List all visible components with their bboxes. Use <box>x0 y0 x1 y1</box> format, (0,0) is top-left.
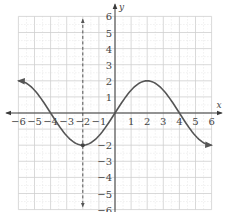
y-tick-label: 6 <box>106 11 112 22</box>
y-tick-label: 5 <box>106 28 112 39</box>
y-axis-label: y <box>118 2 125 12</box>
y-tick-label: −2 <box>97 140 112 151</box>
x-tick-label: −2 <box>75 116 90 127</box>
x-tick-label: −6 <box>11 116 26 127</box>
y-tick-label: −4 <box>97 172 112 183</box>
x-tick-label: 6 <box>208 116 214 127</box>
chart: −6−5−4−3−2−1123456−6−5−4−3−2123456 x y <box>0 0 231 212</box>
x-tick-label: −5 <box>27 116 42 127</box>
axes <box>6 4 221 212</box>
x-tick-label: 2 <box>144 116 150 127</box>
y-tick-label: −6 <box>97 205 112 212</box>
marked-points <box>81 143 85 147</box>
x-tick-label: 3 <box>160 116 166 127</box>
x-tick-label: −3 <box>59 116 74 127</box>
y-tick-label: −5 <box>97 189 112 200</box>
y-tick-label: 2 <box>106 76 112 87</box>
y-tick-label: 3 <box>106 60 112 71</box>
x-tick-label: −1 <box>92 116 107 127</box>
x-axis-label: x <box>217 100 222 110</box>
y-tick-label: −3 <box>97 156 112 167</box>
y-tick-label: 1 <box>106 92 112 103</box>
data-point <box>81 143 85 147</box>
x-tick-label: 1 <box>128 116 134 127</box>
x-tick-label: 5 <box>192 116 198 127</box>
y-tick-label: 4 <box>106 44 112 55</box>
tick-labels: −6−5−4−3−2−1123456−6−5−4−3−2123456 <box>11 11 215 212</box>
